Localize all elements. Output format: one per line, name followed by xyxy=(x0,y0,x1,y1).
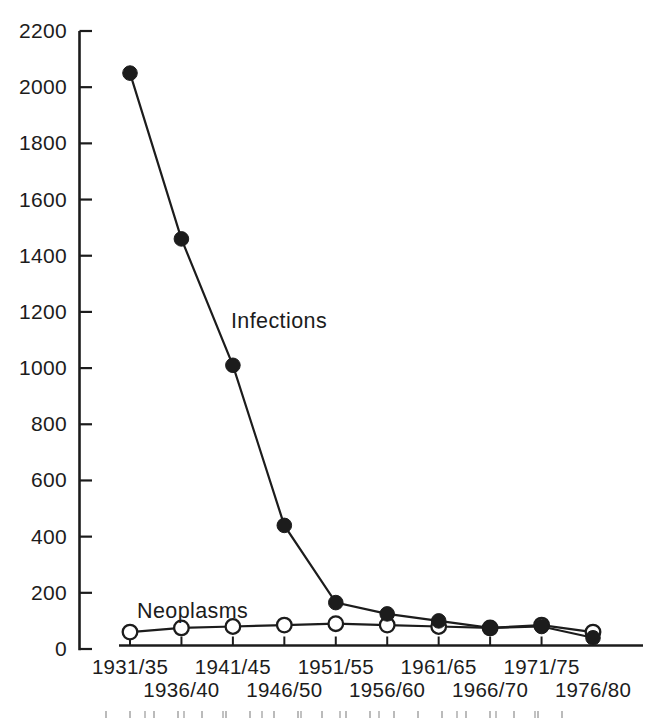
data-point-infections-1971/75 xyxy=(534,619,549,634)
data-point-infections-1951/55 xyxy=(329,595,344,610)
y-tick-label-600: 600 xyxy=(31,468,67,491)
data-point-neoplasms-1946/50 xyxy=(277,618,292,633)
cut-off-caption-marks xyxy=(105,711,570,718)
y-tick-label-800: 800 xyxy=(31,412,67,435)
y-tick-label-1000: 1000 xyxy=(19,356,67,379)
y-tick-label-1600: 1600 xyxy=(19,188,67,211)
data-point-infections-1941/45 xyxy=(226,358,241,373)
data-point-infections-1936/40 xyxy=(174,232,189,247)
y-tick-label-2200: 2200 xyxy=(19,19,67,42)
x-tick-label-1976/80: 1976/80 xyxy=(555,678,631,701)
data-point-neoplasms-1951/55 xyxy=(329,616,344,631)
data-point-infections-1946/50 xyxy=(277,518,292,533)
data-point-infections-1961/65 xyxy=(431,614,446,629)
x-tick-label-1951/55: 1951/55 xyxy=(298,655,374,678)
x-tick-label-1971/75: 1971/75 xyxy=(503,655,579,678)
y-tick-label-2000: 2000 xyxy=(19,75,67,98)
x-tick-label-1941/45: 1941/45 xyxy=(195,655,271,678)
x-tick-label-1936/40: 1936/40 xyxy=(143,678,219,701)
y-tick-label-200: 200 xyxy=(31,581,67,604)
y-tick-label-1200: 1200 xyxy=(19,300,67,323)
scanned-line-chart-figure: 0200400600800100012001400160018002000220… xyxy=(0,0,654,720)
data-point-infections-1966/70 xyxy=(483,621,498,636)
y-tick-label-400: 400 xyxy=(31,525,67,548)
x-tick-label-1931/35: 1931/35 xyxy=(92,655,168,678)
chart-canvas: 0200400600800100012001400160018002000220… xyxy=(0,0,654,720)
data-point-infections-1956/60 xyxy=(380,607,395,622)
neoplasms-series-label: Neoplasms xyxy=(137,599,248,624)
y-tick-label-1400: 1400 xyxy=(19,244,67,267)
data-point-neoplasms-1931/35 xyxy=(123,625,138,640)
y-tick-label-1800: 1800 xyxy=(19,131,67,154)
y-tick-label-0: 0 xyxy=(55,637,67,660)
x-tick-label-1961/65: 1961/65 xyxy=(401,655,477,678)
infections-series-label: Infections xyxy=(231,309,327,334)
x-tick-label-1946/50: 1946/50 xyxy=(246,678,322,701)
x-tick-label-1966/70: 1966/70 xyxy=(452,678,528,701)
x-tick-label-1956/60: 1956/60 xyxy=(349,678,425,701)
data-point-infections-1976/80 xyxy=(586,631,601,646)
data-point-infections-1931/35 xyxy=(123,66,138,81)
series-line-infections xyxy=(130,73,593,638)
